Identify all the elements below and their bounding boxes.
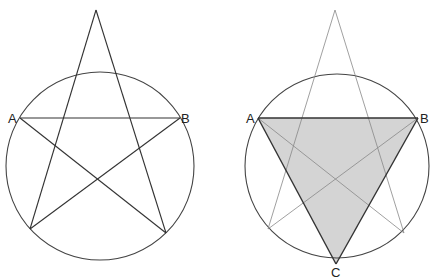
left-pentagram bbox=[20, 10, 180, 233]
label-c-right: C bbox=[331, 265, 340, 279]
diagram-canvas: A B A B C bbox=[0, 0, 441, 279]
label-b-right: B bbox=[420, 111, 429, 126]
label-b-left: B bbox=[181, 111, 190, 126]
left-figure: A B bbox=[6, 10, 194, 260]
shaded-triangle bbox=[258, 118, 418, 264]
right-figure: A B C bbox=[245, 10, 429, 279]
label-a-left: A bbox=[8, 111, 17, 126]
label-a-right: A bbox=[246, 111, 255, 126]
